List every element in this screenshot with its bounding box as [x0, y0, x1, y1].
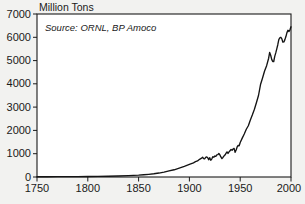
y-tick-label: 0	[25, 171, 31, 183]
y-tick-label: 1000	[7, 147, 31, 159]
chart-page: Million Tons Source: ORNL, BP Amoco 0 10…	[0, 0, 305, 204]
x-tick-label: 1750	[25, 182, 49, 194]
y-tick-label: 6000	[7, 31, 31, 43]
y-tick-label: 5000	[7, 54, 31, 66]
chart-title: Million Tons	[39, 1, 94, 13]
x-tick-label: 1800	[76, 182, 100, 194]
y-tick-label: 3000	[7, 101, 31, 113]
y-tick-label: 4000	[7, 77, 31, 89]
x-tick-label: 1850	[126, 182, 150, 194]
y-tick-label: 2000	[7, 124, 31, 136]
y-tick-label: 7000	[7, 8, 31, 20]
source-annotation: Source: ORNL, BP Amoco	[45, 22, 156, 33]
x-tick-label: 1950	[228, 182, 252, 194]
x-tick-label: 1900	[177, 182, 201, 194]
y-axis: 0 1000 2000 3000 4000 5000 6000 7000	[7, 8, 37, 183]
x-axis: 1750 1800 1850 1900 1950 2000	[25, 177, 301, 194]
emissions-line-chart: Million Tons Source: ORNL, BP Amoco 0 10…	[0, 0, 305, 204]
x-tick-label: 2000	[277, 182, 301, 194]
plot-area-frame	[37, 14, 291, 177]
